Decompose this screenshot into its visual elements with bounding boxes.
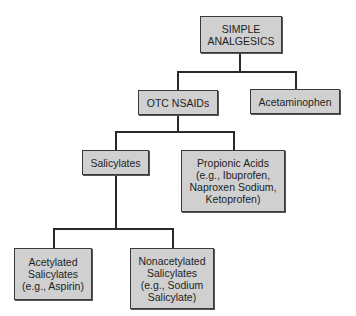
node-label: SIMPLE ANALGESICS [207, 23, 274, 47]
connector-to-otc-nsaids [177, 71, 179, 90]
connector-root-branch [177, 71, 296, 73]
node-label: Nonacetylated Salicylates (e.g., Sodium … [138, 255, 205, 303]
node-acetylated-salicylates: Acetylated Salicylates (e.g., Aspirin) [14, 248, 92, 300]
connector-to-nonacetylated [172, 228, 174, 248]
node-label: Propionic Acids (e.g., Ibuprofen, Naprox… [190, 157, 277, 205]
connector-to-acetaminophen [295, 71, 297, 89]
node-nonacetylated-salicylates: Nonacetylated Salicylates (e.g., Sodium … [130, 248, 214, 309]
connector-salicylates-branch [53, 228, 173, 230]
connector-to-propionic-acids [233, 131, 235, 150]
connector-to-acetylated [53, 228, 55, 248]
connector-to-salicylates [115, 131, 117, 150]
node-salicylates: Salicylates [82, 150, 149, 175]
node-label: OTC NSAIDs [147, 97, 209, 109]
node-simple-analgesics: SIMPLE ANALGESICS [200, 16, 282, 53]
node-label: Acetaminophen [259, 96, 332, 108]
node-acetaminophen: Acetaminophen [250, 89, 340, 114]
connector-root-down [239, 52, 241, 72]
node-label: Acetylated Salicylates (e.g., Aspirin) [22, 256, 84, 292]
connector-otc-down [177, 114, 179, 132]
node-propionic-acids: Propionic Acids (e.g., Ibuprofen, Naprox… [181, 150, 285, 212]
node-label: Salicylates [90, 157, 140, 169]
connector-salicylates-down [115, 174, 117, 229]
connector-otc-branch [115, 131, 234, 133]
node-otc-nsaids: OTC NSAIDs [138, 90, 218, 115]
